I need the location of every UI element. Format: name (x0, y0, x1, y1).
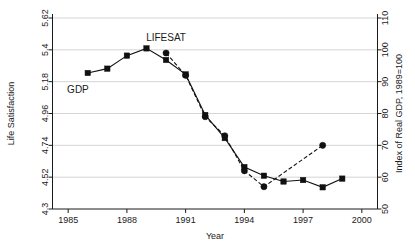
axis-spines (53, 14, 378, 209)
right-tick-label: 50 (380, 204, 390, 214)
data-point-marker (241, 168, 247, 174)
data-point-marker (261, 173, 266, 178)
right-axis-ticks: 5060708090100110 (378, 11, 390, 214)
data-point-marker (320, 185, 325, 190)
data-point-marker (183, 72, 189, 78)
right-tick-label: 100 (380, 42, 390, 57)
data-point-marker (124, 53, 129, 58)
gridlines (53, 18, 378, 177)
left-tick-label: 5.62 (40, 9, 50, 27)
left-tick-label: 4.52 (40, 168, 50, 186)
bottom-tick-label: 1988 (117, 215, 137, 225)
data-point-marker (340, 176, 345, 181)
left-axis-title: Life Satisfaction (6, 82, 16, 146)
series-line (88, 48, 343, 187)
chart-container: 4.34.524.744.965.185.45.62 5060708090100… (0, 0, 415, 247)
series-annotation-lifesat: LIFESAT (146, 32, 186, 43)
series-gdp (163, 50, 326, 190)
left-axis-ticks: 4.34.524.744.965.185.45.62 (40, 9, 53, 215)
data-point-marker (105, 66, 110, 71)
left-tick-label: 4.96 (40, 105, 50, 123)
series-lifesat (85, 46, 345, 190)
left-tick-label: 4.74 (40, 137, 50, 155)
data-series-layer (85, 46, 345, 190)
data-point-marker (163, 57, 168, 62)
series-annotations: LIFESATGDP (67, 32, 186, 95)
series-annotation-gdp: GDP (67, 84, 89, 95)
bottom-tick-label: 1994 (234, 215, 254, 225)
bottom-tick-label: 1997 (293, 215, 313, 225)
line-chart: 4.34.524.744.965.185.45.62 5060708090100… (0, 0, 415, 247)
data-point-marker (261, 184, 267, 190)
bottom-axis-ticks: 198519881991199419972000 (58, 209, 372, 225)
bottom-tick-label: 1985 (58, 215, 78, 225)
data-point-marker (202, 114, 208, 120)
data-point-marker (281, 179, 286, 184)
right-tick-label: 110 (380, 11, 390, 25)
bottom-axis-title: Year (206, 231, 224, 241)
data-point-marker (85, 70, 90, 75)
left-tick-label: 4.3 (40, 203, 50, 216)
data-point-marker (320, 142, 326, 148)
right-tick-label: 60 (380, 172, 390, 182)
data-point-marker (163, 50, 169, 56)
left-tick-label: 5.4 (40, 44, 50, 57)
data-point-marker (300, 177, 305, 182)
right-tick-label: 90 (380, 77, 390, 87)
right-tick-label: 70 (380, 140, 390, 150)
bottom-tick-label: 1991 (176, 215, 196, 225)
right-tick-label: 80 (380, 108, 390, 118)
right-axis-title: Index of Real GDP, 1989=100 (394, 54, 404, 173)
bottom-tick-label: 2000 (352, 215, 372, 225)
left-tick-label: 5.18 (40, 73, 50, 91)
data-point-marker (144, 46, 149, 51)
data-point-marker (222, 133, 228, 139)
